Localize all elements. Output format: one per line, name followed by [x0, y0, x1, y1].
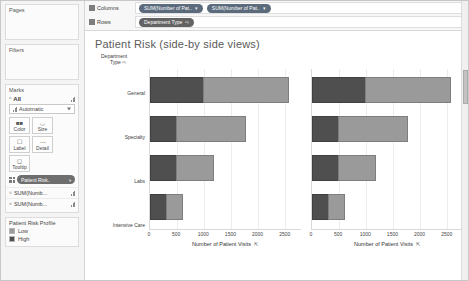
bar-chart-icon [71, 191, 75, 196]
columns-shelf: Columns SUM(Number of Pat.. ▾ SUM(Number… [89, 2, 465, 14]
mark-type-dropdown[interactable]: Automatic [9, 104, 75, 114]
rows-shelf-label-group: Rows [89, 19, 131, 25]
filters-card[interactable]: Filters [5, 44, 79, 80]
x-axis-tick: 1500 [387, 231, 398, 237]
marks-all-row[interactable]: ^ All [6, 95, 78, 104]
filters-card-title: Filters [6, 45, 78, 55]
bar-series [312, 69, 463, 229]
legend-item-high[interactable]: High [9, 236, 75, 242]
detail-button-label: Detail [36, 146, 49, 151]
stacked-bar[interactable] [312, 155, 377, 181]
bar-row [150, 149, 301, 188]
color-legend-title: Patient Risk Profile [9, 220, 75, 226]
x-axis: 05001000150020002500 [311, 230, 463, 242]
bar-segment[interactable] [328, 194, 345, 220]
chart-plot [311, 69, 463, 230]
columns-pill-1[interactable]: SUM(Number of Pat.. ▾ [139, 4, 203, 13]
category-label: Specialty [125, 134, 145, 140]
chevron-down-icon [67, 108, 71, 111]
worksheet-pane: Columns SUM(Number of Pat.. ▾ SUM(Number… [85, 0, 469, 281]
stacked-bar[interactable] [150, 194, 184, 220]
tooltip-icon: ◻ [17, 157, 22, 164]
x-axis-tick: 2500 [279, 231, 290, 237]
bar-segment[interactable] [166, 194, 183, 220]
stacked-bar[interactable] [312, 194, 346, 220]
row-field-header-line2-group: Type ⇨ [110, 60, 463, 66]
columns-pill-2[interactable]: SUM(Number of Pat.. ▾ [207, 4, 271, 13]
label-button[interactable]: ☐ Label [9, 136, 30, 153]
rows-pill-1[interactable]: Department Type ⇨ [139, 18, 194, 27]
x-axis-tick: 0 [310, 231, 313, 237]
bar-segment[interactable] [150, 155, 177, 181]
chevron-down-icon: ^ [9, 97, 11, 102]
bar-segment[interactable] [150, 116, 177, 142]
marks-measure-row-1[interactable]: ˅ SUM(Numb... [6, 187, 78, 198]
marks-card-title: Marks [6, 85, 78, 95]
rows-pill-1-label: Department Type [144, 19, 182, 25]
bar-segment[interactable] [365, 77, 451, 103]
bar-segment[interactable] [312, 155, 339, 181]
bar-row [312, 71, 463, 110]
marks-card: Marks ^ All Automatic ■■ Color ◡ [5, 84, 79, 213]
columns-shelf-well[interactable]: SUM(Number of Pat.. ▾ SUM(Number of Pat.… [135, 2, 465, 14]
bar-segment[interactable] [312, 194, 329, 220]
sort-icon[interactable]: ⇨ [122, 59, 126, 65]
bar-segment[interactable] [150, 194, 167, 220]
legend-label-low: Low [18, 228, 28, 234]
left-sidebar: Pages Filters Marks ^ All Automatic [0, 0, 85, 281]
bar-chart-icon [71, 202, 75, 207]
bar-segment[interactable] [312, 77, 366, 103]
size-button[interactable]: ◡ Size [32, 117, 53, 134]
x-axis-tick: 1500 [225, 231, 236, 237]
bar-row [150, 71, 301, 110]
category-label-cell: Specialty [91, 115, 149, 159]
plot-area: GeneralSpecialtyLabsIntensive Care 05001… [91, 69, 463, 247]
category-label: Intensive Care [113, 222, 145, 228]
pages-card[interactable]: Pages [5, 4, 79, 40]
columns-pill-1-label: SUM(Number of Pat.. [144, 5, 192, 11]
marks-color-pill-row[interactable]: Patient Risk.. ◑ [6, 174, 78, 187]
bar-segment[interactable] [176, 155, 214, 181]
bar-segment[interactable] [312, 116, 339, 142]
rows-shelf-well[interactable]: Department Type ⇨ [135, 16, 465, 28]
x-axis-tick: 0 [148, 231, 151, 237]
scrollbar-thumb[interactable] [463, 70, 468, 104]
rows-shelf-label: Rows [97, 19, 111, 25]
bar-segment[interactable] [338, 155, 376, 181]
bar-segment[interactable] [176, 116, 246, 142]
legend-item-low[interactable]: Low [9, 228, 75, 234]
stacked-bar[interactable] [150, 155, 215, 181]
category-axis: GeneralSpecialtyLabsIntensive Care [91, 69, 149, 247]
tableau-window: Pages Filters Marks ^ All Automatic [0, 0, 469, 281]
bar-segment[interactable] [203, 77, 289, 103]
marks-measure-row-2[interactable]: ˅ SUM(Numb... [6, 198, 78, 209]
category-label: Labs [134, 178, 145, 184]
legend-swatch-high [9, 236, 15, 242]
stacked-bar[interactable] [312, 116, 409, 142]
stacked-bar[interactable] [150, 116, 247, 142]
size-button-label: Size [38, 127, 48, 132]
stacked-bar[interactable] [312, 77, 452, 103]
bar-row [150, 110, 301, 149]
bar-segment[interactable] [150, 77, 204, 103]
row-field-header: Department Type ⇨ [101, 54, 463, 66]
color-button[interactable]: ■■ Color [9, 117, 30, 134]
vertical-scrollbar[interactable] [461, 0, 469, 281]
chevron-down-icon: ˅ [9, 191, 12, 196]
chart-panel: 05001000150020002500Number of Patient Vi… [311, 69, 463, 247]
marks-color-pill[interactable]: Patient Risk.. ◑ [17, 175, 75, 184]
bar-row [312, 110, 463, 149]
stacked-bar[interactable] [150, 77, 290, 103]
detail-button[interactable]: ⋯ Detail [32, 136, 53, 153]
pages-card-title: Pages [6, 5, 78, 15]
x-axis-tick: 1000 [198, 231, 209, 237]
color-button-label: Color [14, 127, 26, 132]
tooltip-button[interactable]: ◻ Tooltip [9, 155, 30, 172]
marks-buttons: ■■ Color ◡ Size ☐ Label ⋯ Detail ◻ Too [6, 117, 78, 174]
chart-panels: 05001000150020002500Number of Patient Vi… [149, 69, 463, 247]
mark-type-icon [13, 107, 17, 112]
marks-measure-label-1: SUM(Numb... [14, 190, 47, 196]
bar-row [150, 188, 301, 227]
bar-segment[interactable] [338, 116, 408, 142]
x-axis-tick: 2500 [441, 231, 452, 237]
